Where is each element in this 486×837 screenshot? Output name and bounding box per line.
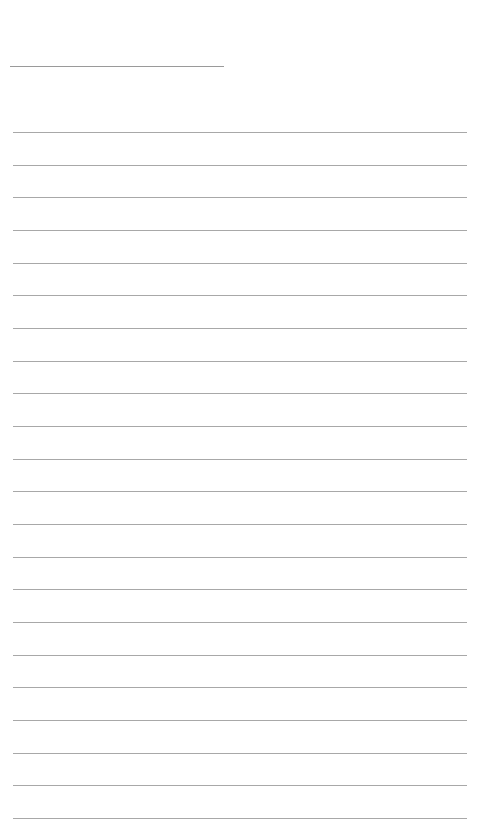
ruled-line [13,426,467,427]
ruled-line [13,524,467,525]
ruled-line [13,785,467,786]
ruled-line [13,491,467,492]
ruled-line [13,230,467,231]
ruled-line [13,132,467,133]
ruled-line [13,393,467,394]
ruled-line [13,818,467,819]
ruled-line [13,687,467,688]
ruled-line [13,328,467,329]
ruled-line [13,165,467,166]
ruled-line [13,720,467,721]
ruled-line [13,557,467,558]
ruled-line [13,753,467,754]
ruled-line [13,622,467,623]
ruled-line [13,361,467,362]
ruled-line [13,589,467,590]
ruled-line [13,459,467,460]
ruled-line [13,295,467,296]
ruled-line [13,197,467,198]
ruled-line [13,263,467,264]
title-line [10,66,224,67]
ruled-line [13,655,467,656]
